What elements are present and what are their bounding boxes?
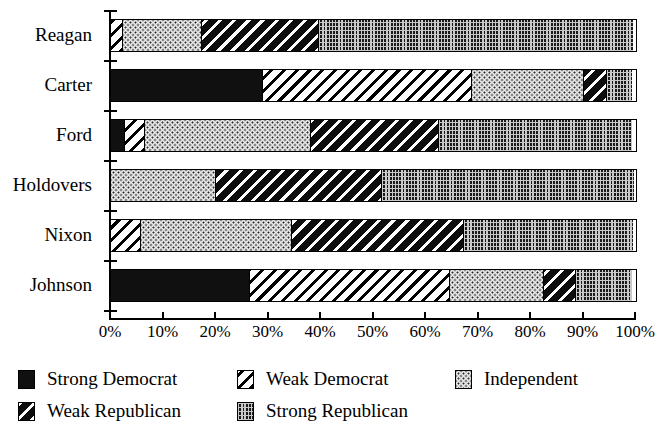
bar-segment-independent (471, 70, 584, 101)
bar-segment-weak-republican (310, 120, 439, 151)
bar-segment-strong-republican (463, 220, 633, 251)
category-label-johnson: Johnson (0, 260, 100, 310)
legend-label: Strong Democrat (47, 368, 177, 390)
bar-segment-independent (449, 270, 544, 301)
bar-segment-weak-republican (215, 170, 382, 201)
x-axis-tick-label: 70% (462, 322, 493, 342)
bar-segment-strong-republican (381, 170, 634, 201)
bar-segment-independent (140, 220, 292, 251)
bar-segment-strong-republican (438, 120, 632, 151)
x-axis-tick (477, 312, 479, 320)
stacked-bar-reagan (110, 19, 637, 52)
stacked-bar-carter (110, 69, 637, 102)
legend-swatch-icon (237, 370, 254, 389)
y-axis-tick (104, 10, 117, 12)
category-label-ford: Ford (0, 110, 100, 160)
x-axis-tick-label: 40% (304, 322, 335, 342)
stacked-bar-holdovers (110, 169, 637, 202)
x-axis-tick (214, 312, 216, 320)
y-axis-tick (104, 210, 117, 212)
x-axis-tick-label: 80% (514, 322, 545, 342)
x-axis-tick (109, 312, 111, 320)
bar-segment-strong-democrat (111, 70, 263, 101)
x-axis-tick-label: 30% (252, 322, 283, 342)
bar-segment-weak-democrat (124, 120, 145, 151)
category-label-nixon: Nixon (0, 210, 100, 260)
legend-item-strong-democrat: Strong Democrat (18, 368, 177, 390)
legend-label: Strong Republican (266, 400, 408, 422)
x-axis-tick (529, 312, 531, 320)
bar-row: Reagan (0, 10, 667, 60)
bar-segment-strong-republican (575, 270, 632, 301)
bar-segment-weak-democrat (249, 270, 450, 301)
bar-segment-weak-democrat (262, 70, 472, 101)
legend-swatch-icon (18, 402, 35, 421)
bar-segment-weak-democrat (111, 220, 141, 251)
bar-row: Nixon (0, 210, 667, 260)
category-label-carter: Carter (0, 60, 100, 110)
bar-segment-weak-republican (201, 20, 319, 51)
legend-swatch-icon (18, 370, 35, 389)
stacked-bar-ford (110, 119, 637, 152)
legend-item-strong-republican: Strong Republican (237, 400, 408, 422)
y-axis-tick (104, 110, 117, 112)
bar-row: Holdovers (0, 160, 667, 210)
y-axis-tick (104, 160, 117, 162)
stacked-bar-chart: ReaganCarterFordHoldoversNixonJohnson 0%… (0, 0, 667, 436)
stacked-bar-nixon (110, 219, 637, 252)
bar-segment-weak-republican (543, 270, 576, 301)
x-axis-tick (319, 312, 321, 320)
stacked-bar-johnson (110, 269, 637, 302)
bar-segment-strong-republican (318, 20, 633, 51)
x-axis-tick (372, 312, 374, 320)
x-axis-tick (424, 312, 426, 320)
bar-row: Ford (0, 110, 667, 160)
x-axis-tick (162, 312, 164, 320)
x-axis-tick-label: 50% (357, 322, 388, 342)
legend-label: Weak Republican (47, 400, 181, 422)
y-axis-tick (104, 60, 117, 62)
x-axis-tick-label: 60% (409, 322, 440, 342)
x-axis-tick (582, 312, 584, 320)
bar-segment-independent (122, 20, 202, 51)
category-label-holdovers: Holdovers (0, 160, 100, 210)
legend-swatch-icon (237, 402, 254, 421)
x-axis-tick-label: 90% (567, 322, 598, 342)
bar-segment-strong-democrat (111, 120, 125, 151)
legend-label: Independent (484, 368, 578, 390)
x-axis-tick-label: 10% (147, 322, 178, 342)
bar-segment-independent (111, 170, 216, 201)
legend-item-weak-democrat: Weak Democrat (237, 368, 388, 390)
x-axis-tick-label: 20% (199, 322, 230, 342)
legend-swatch-icon (455, 370, 472, 389)
x-axis-tick (267, 312, 269, 320)
legend-item-weak-republican: Weak Republican (18, 400, 181, 422)
category-label-reagan: Reagan (0, 10, 100, 60)
legend-item-independent: Independent (455, 368, 578, 390)
bar-segment-weak-republican (583, 70, 607, 101)
bar-segment-strong-democrat (111, 270, 250, 301)
bar-segment-strong-republican (606, 70, 632, 101)
bar-row: Carter (0, 60, 667, 110)
y-axis-tick (104, 260, 117, 262)
x-axis-tick (634, 312, 636, 320)
legend-label: Weak Democrat (266, 368, 388, 390)
bar-segment-independent (144, 120, 311, 151)
x-axis-tick-label: 100% (615, 322, 655, 342)
plot-area: ReaganCarterFordHoldoversNixonJohnson (0, 0, 667, 340)
bar-segment-weak-republican (291, 220, 464, 251)
x-axis-tick-label: 0% (99, 322, 122, 342)
chart-legend: Strong DemocratWeak DemocratIndependentW… (0, 358, 667, 436)
bar-row: Johnson (0, 260, 667, 310)
